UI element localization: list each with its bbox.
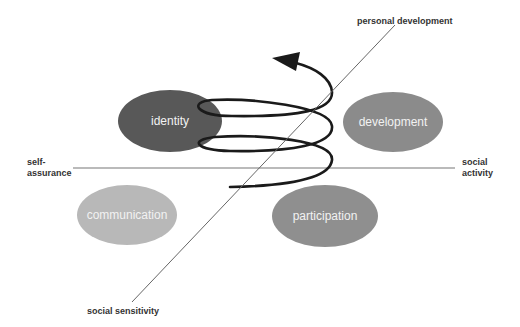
axis-label-self-assurance: self- assurance xyxy=(27,157,72,179)
axis-label-social-sensitivity: social sensitivity xyxy=(87,306,159,317)
axis-label-social-activity: social activity xyxy=(462,157,493,179)
bubble-communication-label: communication xyxy=(87,208,168,222)
diagonal-axis-line xyxy=(132,25,395,302)
axis-label-self-assurance-line1: self- xyxy=(27,157,72,168)
bubble-participation: participation xyxy=(272,185,378,247)
axis-label-social-activity-line1: social xyxy=(462,157,493,168)
bubble-identity-label: identity xyxy=(151,114,189,128)
bubble-identity: identity xyxy=(118,90,222,152)
bubble-participation-label: participation xyxy=(293,209,358,223)
axis-label-social-activity-line2: activity xyxy=(462,168,493,179)
bubble-development: development xyxy=(343,92,443,152)
axis-label-personal-development: personal development xyxy=(357,16,453,27)
bubble-development-label: development xyxy=(359,115,428,129)
axis-label-self-assurance-line2: assurance xyxy=(27,168,72,179)
arrowhead-icon xyxy=(272,52,300,71)
bubble-communication: communication xyxy=(77,185,177,245)
diagram-svg: identity development communication parti… xyxy=(0,0,520,327)
diagram-canvas: identity development communication parti… xyxy=(0,0,520,327)
